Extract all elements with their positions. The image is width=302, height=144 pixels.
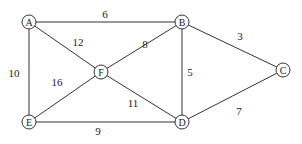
edge-weight-label: 9 xyxy=(95,125,101,137)
edge-weight-label: 16 xyxy=(52,76,64,88)
edge-a-f xyxy=(29,22,101,72)
edge-weights-group: 61210853716119 xyxy=(9,8,244,137)
edge-b-c xyxy=(182,22,283,70)
node-b: B xyxy=(175,15,189,29)
node-label: D xyxy=(178,117,185,128)
edge-f-d xyxy=(101,72,182,122)
edge-weight-label: 6 xyxy=(102,8,108,20)
edges-group xyxy=(29,22,283,122)
edge-weight-label: 3 xyxy=(237,30,243,42)
node-f: F xyxy=(94,65,108,79)
node-c: C xyxy=(276,63,290,77)
edge-weight-label: 8 xyxy=(142,38,148,50)
node-a: A xyxy=(22,15,36,29)
node-e: E xyxy=(22,115,36,129)
edge-f-e xyxy=(29,72,101,122)
edge-c-d xyxy=(182,70,283,122)
edge-weight-label: 11 xyxy=(128,97,139,109)
edge-weight-label: 5 xyxy=(187,66,193,78)
edge-weight-label: 7 xyxy=(236,105,242,117)
edge-weight-label: 10 xyxy=(9,67,21,79)
node-label: F xyxy=(98,67,104,78)
node-label: E xyxy=(26,117,32,128)
node-label: B xyxy=(179,17,186,28)
edge-weight-label: 12 xyxy=(73,36,84,48)
node-label: C xyxy=(280,65,287,76)
nodes-group: ABCDEF xyxy=(22,15,290,129)
node-d: D xyxy=(175,115,189,129)
graph-diagram: 61210853716119 ABCDEF xyxy=(0,0,302,144)
node-label: A xyxy=(25,17,33,28)
